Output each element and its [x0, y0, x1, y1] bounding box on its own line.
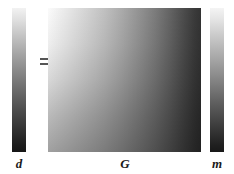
- model-vector-gradient: [210, 8, 224, 152]
- label-model-vector: m: [207, 157, 227, 171]
- matrix-g: [48, 8, 201, 152]
- equals-sign-icon: [40, 57, 48, 66]
- matrix-gradient: [48, 8, 201, 152]
- data-vector-gradient: [12, 8, 26, 152]
- model-vector-m: [210, 8, 224, 152]
- label-data-vector: d: [9, 157, 29, 171]
- data-vector-d: [12, 8, 26, 152]
- label-matrix: G: [114, 157, 136, 171]
- equals-bar-bottom: [40, 63, 48, 65]
- linear-system-figure: d G m: [0, 0, 234, 174]
- equals-bar-top: [40, 58, 48, 60]
